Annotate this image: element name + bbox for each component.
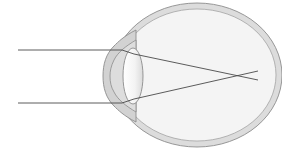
eye-diagram	[0, 0, 282, 151]
eye-diagram-svg	[0, 0, 282, 151]
lens	[123, 48, 143, 104]
